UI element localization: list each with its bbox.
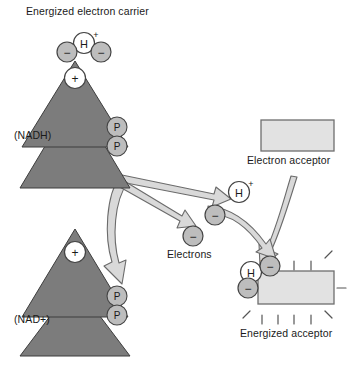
electron-acceptor-box	[261, 120, 334, 151]
energized-electron-badge-1: −	[260, 256, 280, 276]
svg-text:−: −	[244, 282, 251, 296]
nadplus-charge-badge: +	[65, 242, 86, 263]
svg-text:+: +	[248, 179, 253, 189]
nadh-phosphate-2: P	[107, 136, 127, 156]
diagram-graphics: + H + − − P P +	[0, 0, 347, 373]
energized-electron-badge-2: −	[238, 278, 258, 298]
nadh-charge-badge: +	[65, 68, 86, 89]
svg-text:−: −	[97, 46, 104, 60]
svg-text:+: +	[71, 246, 78, 260]
svg-text:H: H	[247, 267, 255, 279]
svg-text:−: −	[189, 230, 196, 244]
svg-text:P: P	[114, 291, 121, 302]
svg-text:+: +	[71, 72, 78, 86]
svg-text:+: +	[93, 30, 98, 40]
nadh-electron-badge-1: −	[57, 42, 77, 62]
diagram-canvas: + H + − − P P +	[0, 0, 347, 373]
nadh-phosphate-1: P	[107, 117, 127, 137]
free-proton-badge: H +	[229, 179, 254, 203]
label-electrons: Electrons	[167, 248, 212, 260]
label-nadplus: (NAD+)	[14, 313, 50, 325]
free-electron-badge-1: −	[205, 205, 225, 225]
diagram-title: Energized electron carrier	[26, 5, 149, 17]
nadplus-phosphate-1: P	[107, 286, 127, 306]
label-nadh: (NADH)	[14, 129, 51, 141]
svg-text:−: −	[266, 260, 273, 274]
svg-text:−: −	[211, 209, 218, 223]
nadh-electron-badge-2: −	[91, 42, 111, 62]
label-energized-acceptor: Energized acceptor	[240, 327, 332, 339]
svg-text:P: P	[114, 310, 121, 321]
nadplus-phosphate-2: P	[107, 305, 127, 325]
free-electron-badge-2: −	[183, 226, 203, 246]
svg-text:P: P	[114, 141, 121, 152]
svg-text:H: H	[80, 38, 88, 50]
arrow-nadh-to-nadplus	[104, 176, 128, 284]
svg-text:H: H	[235, 187, 243, 199]
label-electron-acceptor: Electron acceptor	[247, 154, 330, 166]
svg-text:−: −	[63, 46, 70, 60]
svg-text:P: P	[114, 122, 121, 133]
